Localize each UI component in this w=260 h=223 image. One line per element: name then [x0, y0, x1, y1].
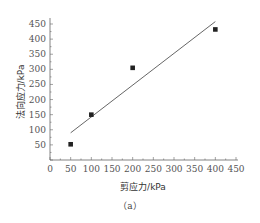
x-tick-label: 450	[227, 164, 244, 174]
data-point-square	[68, 142, 73, 147]
x-tick-label: 400	[207, 164, 224, 174]
y-tick-label: 300	[29, 64, 46, 74]
x-axis-label: 剪应力/kPa	[120, 181, 166, 192]
x-tick-label: 200	[124, 164, 141, 174]
data-point-square	[130, 66, 135, 71]
x-axis-ticks: 050100150200250300350400450	[47, 157, 245, 174]
data-point-square	[213, 27, 218, 32]
figure-caption: （a）	[0, 199, 260, 212]
axes	[50, 18, 238, 160]
x-tick-label: 50	[65, 164, 77, 174]
data-point-square	[89, 112, 94, 117]
x-tick-label: 150	[103, 164, 120, 174]
y-axis-ticks: 50100150200250300350400450	[29, 19, 53, 160]
y-tick-label: 450	[29, 19, 46, 29]
x-tick-label: 300	[165, 164, 182, 174]
chart: 050100150200250300350400450 501001502002…	[0, 0, 260, 223]
y-tick-label: 150	[29, 110, 46, 120]
y-tick-label: 350	[29, 49, 46, 59]
x-tick-label: 350	[186, 164, 203, 174]
plot-series	[68, 22, 217, 147]
y-tick-label: 250	[29, 79, 46, 89]
x-tick-label: 0	[47, 164, 53, 174]
y-tick-label: 50	[35, 140, 47, 150]
y-tick-label: 400	[29, 34, 46, 44]
x-tick-label: 250	[145, 164, 162, 174]
y-tick-label: 100	[29, 125, 46, 135]
y-axis-label: 法向应力/kPa	[15, 65, 26, 120]
x-tick-label: 100	[83, 164, 100, 174]
y-tick-label: 200	[29, 95, 46, 105]
